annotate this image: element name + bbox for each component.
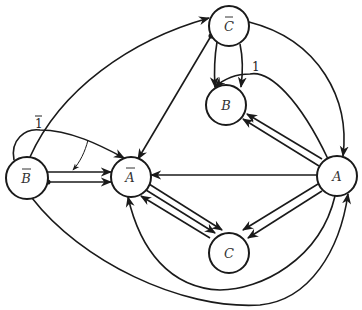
node-b: B <box>206 85 246 125</box>
edge-bbar-to-cbar <box>30 18 209 157</box>
state-diagram: 1 1 C B B A A C <box>0 0 362 310</box>
edge-cbar-to-b-2 <box>240 44 242 87</box>
node-bbar: B <box>6 157 48 199</box>
edge-label-1: 1 <box>252 60 260 74</box>
edge-a-to-c-2 <box>248 191 322 238</box>
edge-label-1bar: 1 <box>35 117 43 131</box>
edges <box>13 18 348 305</box>
node-a: A <box>317 156 357 196</box>
node-label-abar: A <box>124 170 134 185</box>
node-label-cbar: C <box>224 19 234 34</box>
edge-a-to-b-1 <box>243 119 319 166</box>
node-label-bbar: B <box>20 171 31 186</box>
node-label-c: C <box>224 246 234 261</box>
edge-c-to-abar <box>141 196 210 238</box>
node-label-b: B <box>220 98 231 113</box>
node-cbar: C <box>209 6 249 46</box>
annotation-arrow <box>73 140 88 170</box>
node-abar: A <box>111 157 151 197</box>
node-c: C <box>209 233 249 273</box>
edge-a-to-c-1 <box>243 184 318 230</box>
edge-abar-to-c-2 <box>146 190 215 233</box>
edge-cbar-to-abar <box>138 36 211 159</box>
edge-cbar-to-b-1 <box>214 42 217 87</box>
node-label-a: A <box>331 169 341 184</box>
edge-cbar-to-a <box>249 22 344 156</box>
edge-a-to-b-2 <box>247 114 322 159</box>
